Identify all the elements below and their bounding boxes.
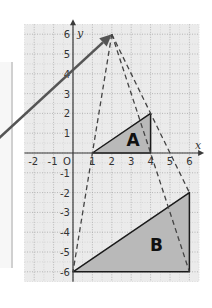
x-tick-label: 1 <box>89 156 95 167</box>
x-axis-label: x <box>195 139 202 152</box>
x-tick-label: 6 <box>186 156 192 167</box>
y-tick-label: -3 <box>60 207 70 218</box>
x-tick-label: 4 <box>147 156 153 167</box>
y-tick-label: 6 <box>64 29 70 40</box>
x-tick-label: 5 <box>167 156 173 167</box>
x-tick-label: -1 <box>48 156 58 167</box>
y-tick-label: -5 <box>60 247 70 258</box>
y-axis-arrow-icon <box>70 19 76 25</box>
y-tick-label: -2 <box>60 188 70 199</box>
y-tick-label: 5 <box>64 49 70 60</box>
x-tick-label: -2 <box>28 156 38 167</box>
x-tick-label: 3 <box>128 156 134 167</box>
y-axis-label: y <box>76 27 84 40</box>
x-tick-label: 2 <box>109 156 115 167</box>
y-tick-label: 3 <box>64 89 70 100</box>
y-tick-label: 1 <box>64 128 70 139</box>
origin-label: O <box>63 156 71 167</box>
shape-label-a: A <box>127 130 141 150</box>
y-tick-label: -4 <box>60 227 70 238</box>
shape-label-b: B <box>150 235 163 255</box>
y-tick-label: 2 <box>64 108 70 119</box>
y-tick-label: -1 <box>60 168 70 179</box>
coordinate-diagram: AB xyO-2-1123456654321-1-2-3-4-5-6 <box>0 0 212 308</box>
y-tick-label: -6 <box>60 267 70 278</box>
